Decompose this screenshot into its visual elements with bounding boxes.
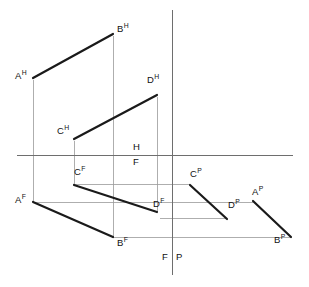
segment-AP-BP bbox=[253, 201, 291, 237]
point-letter: D bbox=[153, 198, 160, 209]
projection-diagram: AHBHCHDHAFBFCFDFCPDPAPBPHFFP bbox=[0, 0, 309, 287]
point-label-ah: AH bbox=[15, 70, 27, 81]
plane-label-h: H bbox=[133, 142, 140, 152]
point-letter: A bbox=[252, 186, 259, 197]
point-view-superscript: P bbox=[259, 185, 264, 192]
point-view-superscript: P bbox=[197, 167, 202, 174]
point-letter: C bbox=[74, 166, 81, 177]
point-letter: A bbox=[15, 70, 22, 81]
point-view-superscript: P bbox=[281, 233, 286, 240]
point-label-dh: DH bbox=[147, 74, 159, 85]
plane-label-p-bottom: P bbox=[176, 252, 182, 262]
point-label-cf: CF bbox=[74, 166, 86, 177]
point-letter: D bbox=[147, 74, 154, 85]
point-letter: C bbox=[190, 168, 197, 179]
point-letter: D bbox=[228, 199, 235, 210]
segment-CF-DF bbox=[74, 185, 157, 212]
segment-AH-BH bbox=[33, 34, 113, 78]
point-view-superscript: F bbox=[124, 236, 128, 243]
point-letter: B bbox=[274, 234, 281, 245]
point-letter: B bbox=[117, 237, 124, 248]
point-label-ap: AP bbox=[252, 186, 264, 197]
point-view-superscript: H bbox=[22, 69, 27, 76]
point-view-superscript: H bbox=[124, 22, 129, 29]
point-view-superscript: F bbox=[160, 197, 164, 204]
point-view-superscript: F bbox=[81, 165, 85, 172]
point-letter: B bbox=[117, 23, 124, 34]
diagram-canvas bbox=[0, 0, 309, 287]
plane-label-f-bottom: F bbox=[162, 252, 168, 262]
point-label-af: AF bbox=[15, 194, 26, 205]
point-view-superscript: H bbox=[64, 124, 69, 131]
point-label-cp: CP bbox=[190, 168, 202, 179]
point-label-bp: BP bbox=[274, 234, 286, 245]
point-view-superscript: F bbox=[22, 193, 26, 200]
point-letter: C bbox=[57, 125, 64, 136]
point-view-superscript: P bbox=[235, 198, 240, 205]
segment-AF-BF bbox=[33, 202, 113, 237]
point-label-bh: BH bbox=[117, 23, 129, 34]
point-label-df: DF bbox=[153, 198, 165, 209]
segment-CH-DH bbox=[74, 95, 157, 139]
point-label-dp: DP bbox=[228, 199, 240, 210]
point-label-bf: BF bbox=[117, 237, 128, 248]
point-label-ch: CH bbox=[57, 125, 69, 136]
reference-axis-group bbox=[17, 10, 293, 275]
point-letter: A bbox=[15, 194, 22, 205]
point-view-superscript: H bbox=[154, 73, 159, 80]
plane-label-f: F bbox=[133, 157, 139, 167]
